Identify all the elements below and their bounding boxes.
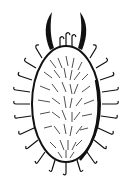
- spiny-fruit-drawing: [0, 0, 129, 186]
- illustration: [0, 0, 129, 186]
